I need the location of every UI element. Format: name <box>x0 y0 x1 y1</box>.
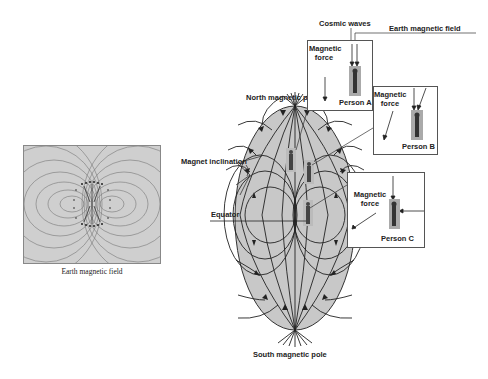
person-b-label: Person B <box>402 143 435 151</box>
person-c-label: Person C <box>381 235 414 243</box>
earth-magnetic-field-label: Earth magnetic field <box>389 25 461 33</box>
equator-label: Equator <box>211 211 239 219</box>
person-c-box: Magnetic force Person C <box>347 172 425 248</box>
person-a-box: Magnetic force Person A <box>307 40 373 111</box>
person-b-box: Magnetic force Person B <box>373 86 438 155</box>
cosmic-waves-label: Cosmic waves <box>319 20 371 28</box>
south-pole-label: South magnetic pole <box>253 351 327 359</box>
magnet-inclination-label: Magnet inclination <box>181 158 247 166</box>
person-a-label: Person A <box>339 99 372 107</box>
